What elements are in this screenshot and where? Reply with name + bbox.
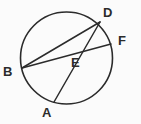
chord-b-d [22, 22, 100, 68]
geometry-figure: D F E B A [0, 0, 141, 124]
point-label-a: A [42, 106, 51, 119]
point-label-e: E [71, 56, 80, 69]
point-label-d: D [103, 6, 112, 19]
circle-outline [21, 12, 113, 104]
point-label-f: F [118, 34, 126, 47]
point-label-b: B [3, 65, 12, 78]
chord-b-f [22, 44, 111, 68]
